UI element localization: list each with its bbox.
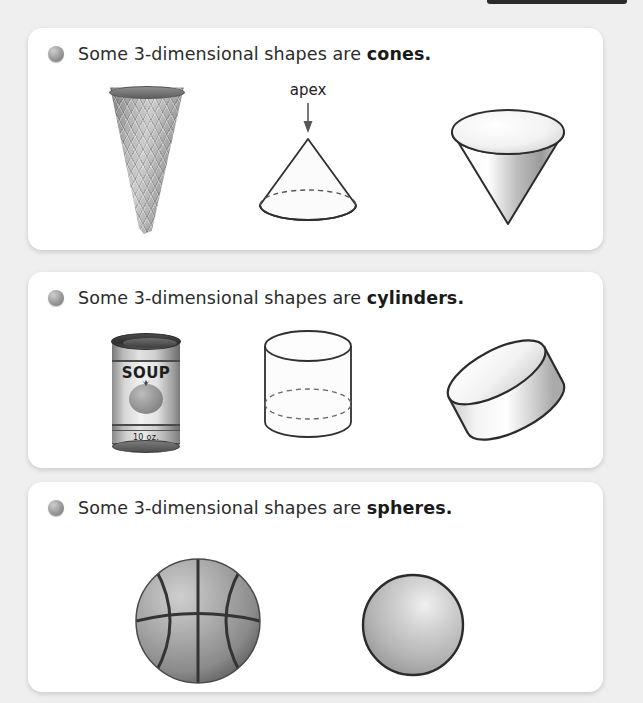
figures-cones: apex	[28, 76, 603, 246]
sphere-bullet-icon	[48, 46, 64, 62]
sentence-prefix: Some 3-dimensional shapes are	[78, 288, 367, 308]
soup-can-lid-inner-icon	[123, 338, 177, 348]
figure-basketball	[123, 546, 273, 686]
worksheet-page: Some 3-dimensional shapes are cones. ape…	[0, 0, 643, 703]
figure-shaded-sphere	[338, 558, 488, 678]
headline-text-cones: Some 3-dimensional shapes are cones.	[78, 44, 431, 64]
sentence-keyword: cones.	[367, 44, 431, 64]
soup-can-bottom-icon	[112, 440, 180, 453]
headline-text-spheres: Some 3-dimensional shapes are spheres.	[78, 498, 452, 518]
apex-label: apex	[233, 81, 383, 99]
figure-wireframe-cylinder	[233, 328, 383, 454]
headline-text-cylinders: Some 3-dimensional shapes are cylinders.	[78, 288, 464, 308]
figure-wireframe-cone: apex	[228, 76, 388, 241]
waffle-cone-rim-icon	[109, 86, 185, 99]
figures-cylinders: SOUP 10 oz.	[28, 320, 603, 490]
tomato-icon	[129, 384, 163, 414]
basketball-icon	[133, 556, 263, 686]
shaded-inverted-cone-icon	[433, 94, 583, 234]
card-spheres[interactable]: Some 3-dimensional shapes are spheres.	[28, 482, 603, 692]
wireframe-cone-icon	[233, 81, 383, 241]
figure-shaded-tilted-cylinder	[423, 324, 598, 454]
card-cylinders[interactable]: Some 3-dimensional shapes are cylinders.…	[28, 272, 603, 468]
headline-cylinders: Some 3-dimensional shapes are cylinders.	[48, 288, 464, 308]
card-cones[interactable]: Some 3-dimensional shapes are cones. ape…	[28, 28, 603, 250]
figure-soup-can: SOUP 10 oz.	[86, 324, 206, 454]
figures-spheres	[28, 530, 603, 700]
waffle-cone-body-icon	[107, 86, 187, 234]
sentence-prefix: Some 3-dimensional shapes are	[78, 498, 367, 518]
soup-can-title: SOUP	[112, 366, 180, 381]
sentence-keyword: cylinders.	[367, 288, 464, 308]
figure-waffle-ice-cream-cone	[102, 78, 192, 236]
soup-can-lid-icon	[111, 333, 181, 350]
headline-cones: Some 3-dimensional shapes are cones.	[48, 44, 431, 64]
sentence-keyword: spheres.	[367, 498, 453, 518]
wireframe-cylinder-icon	[243, 328, 373, 454]
soup-can-label: SOUP	[112, 360, 180, 426]
figure-shaded-inverted-cone	[428, 84, 588, 234]
sphere-bullet-icon	[48, 290, 64, 306]
sentence-prefix: Some 3-dimensional shapes are	[78, 44, 367, 64]
sphere-icon	[360, 572, 466, 678]
sphere-bullet-icon	[48, 500, 64, 516]
headline-spheres: Some 3-dimensional shapes are spheres.	[48, 498, 452, 518]
shaded-tilted-cylinder-icon	[426, 326, 596, 454]
top-tab-strip	[487, 0, 627, 4]
